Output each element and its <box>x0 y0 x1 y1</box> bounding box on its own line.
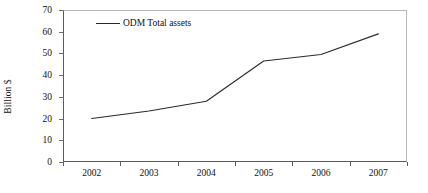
y-axis-tick-label: 20 <box>0 114 52 124</box>
x-axis-tick-mark <box>63 162 64 166</box>
x-axis-tick-label: 2002 <box>62 168 122 179</box>
y-axis-tick-label: 30 <box>0 92 52 102</box>
y-axis-tick-labels: 010203040506070 <box>0 0 58 193</box>
x-axis-tick-mark <box>292 162 293 166</box>
legend-line-swatch <box>96 23 120 24</box>
x-axis-tick-label: 2006 <box>291 168 351 179</box>
x-axis-tick-label: 2005 <box>234 168 294 179</box>
y-axis-tick-label: 40 <box>0 70 52 80</box>
y-axis-tick-label: 50 <box>0 48 52 58</box>
y-axis-tick-label: 60 <box>0 27 52 37</box>
plot-area <box>63 10 407 162</box>
series-line-0 <box>92 34 379 119</box>
chart-legend: ODM Total assets <box>96 18 191 29</box>
x-axis-tick-mark <box>407 162 408 166</box>
x-axis-tick-mark <box>178 162 179 166</box>
y-axis-tick-label: 70 <box>0 5 52 15</box>
x-axis-tick-label: 2003 <box>119 168 179 179</box>
series-svg <box>63 10 407 162</box>
line-chart: Billion $ 010203040506070 20022003200420… <box>0 0 428 193</box>
x-axis-tick-label: 2007 <box>348 168 408 179</box>
x-axis-tick-mark <box>120 162 121 166</box>
legend-label: ODM Total assets <box>123 18 191 29</box>
y-axis-tick-label: 0 <box>0 157 52 167</box>
y-axis-tick-label: 10 <box>0 135 52 145</box>
x-axis-tick-label: 2004 <box>176 168 236 179</box>
x-axis-tick-mark <box>350 162 351 166</box>
x-axis-tick-mark <box>235 162 236 166</box>
